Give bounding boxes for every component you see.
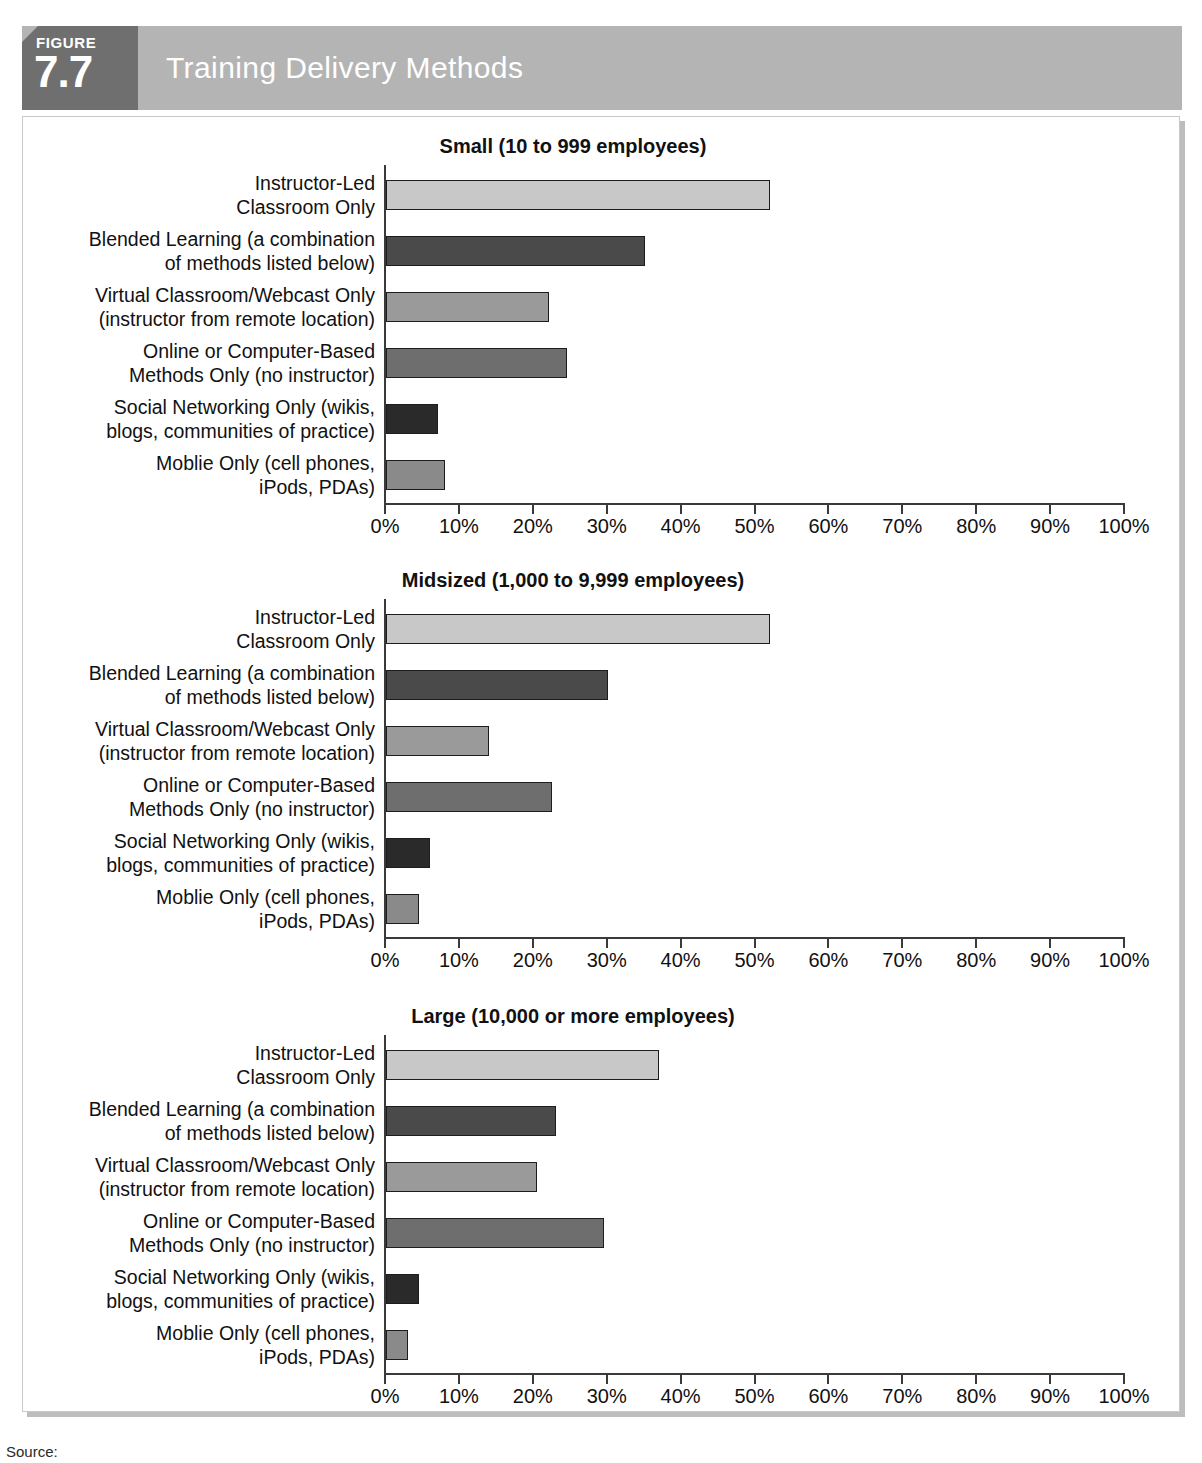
- x-axis-tick-label: 70%: [862, 949, 942, 972]
- x-axis-tick: [680, 1375, 682, 1384]
- x-axis-tick: [384, 939, 386, 948]
- plot-area: 0%10%20%30%40%50%60%70%80%90%100%Instruc…: [23, 599, 1181, 954]
- category-label: Social Networking Only (wikis,blogs, com…: [23, 829, 375, 877]
- x-axis-tick: [606, 505, 608, 514]
- x-axis-tick-label: 0%: [345, 949, 425, 972]
- bar: [386, 180, 770, 210]
- chart-row: Instructor-LedClassroom Only: [23, 1037, 1181, 1093]
- chart-row: Blended Learning (a combinationof method…: [23, 1093, 1181, 1149]
- x-axis-tick: [384, 1375, 386, 1384]
- x-axis-tick-label: 20%: [493, 515, 573, 538]
- x-axis-tick: [901, 1375, 903, 1384]
- category-label: Social Networking Only (wikis,blogs, com…: [23, 1265, 375, 1313]
- x-axis-tick: [827, 505, 829, 514]
- x-axis-tick-label: 0%: [345, 515, 425, 538]
- bar: [386, 838, 430, 868]
- x-axis-tick: [1123, 939, 1125, 948]
- x-axis-tick: [754, 1375, 756, 1384]
- x-axis-tick-label: 0%: [345, 1385, 425, 1408]
- x-axis-tick-label: 60%: [788, 1385, 868, 1408]
- category-label: Instructor-LedClassroom Only: [23, 171, 375, 219]
- x-axis-tick: [975, 939, 977, 948]
- x-axis-tick: [1049, 939, 1051, 948]
- bar: [386, 1162, 537, 1192]
- bar: [386, 670, 608, 700]
- panel-title: Large (10,000 or more employees): [23, 1005, 1123, 1028]
- chart-row: Virtual Classroom/Webcast Only(instructo…: [23, 1149, 1181, 1205]
- x-axis-tick-label: 60%: [788, 515, 868, 538]
- bar: [386, 726, 489, 756]
- bar: [386, 236, 645, 266]
- panel-title: Small (10 to 999 employees): [23, 135, 1123, 158]
- x-axis-tick-label: 10%: [419, 949, 499, 972]
- bar: [386, 1050, 659, 1080]
- figure-number-tab: FIGURE 7.7: [22, 26, 138, 110]
- category-label: Virtual Classroom/Webcast Only(instructo…: [23, 717, 375, 765]
- chart-row: Social Networking Only (wikis,blogs, com…: [23, 1261, 1181, 1317]
- chart-row: Moblie Only (cell phones,iPods, PDAs): [23, 881, 1181, 937]
- x-axis-tick: [754, 505, 756, 514]
- x-axis-tick-label: 20%: [493, 1385, 573, 1408]
- x-axis-tick: [975, 1375, 977, 1384]
- x-axis-tick: [458, 939, 460, 948]
- x-axis-tick-label: 40%: [641, 1385, 721, 1408]
- x-axis-tick: [680, 939, 682, 948]
- bar: [386, 614, 770, 644]
- x-axis-tick: [901, 939, 903, 948]
- bar: [386, 460, 445, 490]
- category-label: Online or Computer-BasedMethods Only (no…: [23, 1209, 375, 1257]
- category-label: Blended Learning (a combinationof method…: [23, 661, 375, 709]
- category-label: Moblie Only (cell phones,iPods, PDAs): [23, 1321, 375, 1369]
- chart-row: Moblie Only (cell phones,iPods, PDAs): [23, 447, 1181, 503]
- category-label: Social Networking Only (wikis,blogs, com…: [23, 395, 375, 443]
- x-axis-tick-label: 50%: [715, 1385, 795, 1408]
- x-axis-tick: [754, 939, 756, 948]
- chart-row: Online or Computer-BasedMethods Only (no…: [23, 769, 1181, 825]
- x-axis-tick-label: 100%: [1084, 515, 1164, 538]
- chart-row: Moblie Only (cell phones,iPods, PDAs): [23, 1317, 1181, 1373]
- x-axis-tick-label: 90%: [1010, 949, 1090, 972]
- chart-row: Social Networking Only (wikis,blogs, com…: [23, 825, 1181, 881]
- x-axis-tick: [532, 1375, 534, 1384]
- category-label: Blended Learning (a combinationof method…: [23, 1097, 375, 1145]
- chart-row: Blended Learning (a combinationof method…: [23, 223, 1181, 279]
- x-axis-tick-label: 100%: [1084, 949, 1164, 972]
- bar: [386, 1218, 604, 1248]
- x-axis-tick: [606, 939, 608, 948]
- x-axis-tick-label: 80%: [936, 949, 1016, 972]
- category-label: Instructor-LedClassroom Only: [23, 605, 375, 653]
- x-axis-tick-label: 90%: [1010, 1385, 1090, 1408]
- x-axis-tick: [1049, 505, 1051, 514]
- category-label: Online or Computer-BasedMethods Only (no…: [23, 773, 375, 821]
- bar: [386, 1274, 419, 1304]
- x-axis-tick-label: 30%: [567, 515, 647, 538]
- x-axis-tick-label: 70%: [862, 515, 942, 538]
- chart-row: Blended Learning (a combinationof method…: [23, 657, 1181, 713]
- x-axis-tick: [532, 939, 534, 948]
- plot-area: 0%10%20%30%40%50%60%70%80%90%100%Instruc…: [23, 165, 1181, 520]
- x-axis-tick-label: 10%: [419, 1385, 499, 1408]
- category-label: Online or Computer-BasedMethods Only (no…: [23, 339, 375, 387]
- x-axis-tick-label: 30%: [567, 949, 647, 972]
- x-axis-tick-label: 70%: [862, 1385, 942, 1408]
- x-axis-tick-label: 30%: [567, 1385, 647, 1408]
- x-axis-tick: [1123, 505, 1125, 514]
- chart-row: Instructor-LedClassroom Only: [23, 167, 1181, 223]
- chart-frame: Small (10 to 999 employees) 0%10%20%30%4…: [22, 116, 1180, 1412]
- bar: [386, 348, 567, 378]
- chart-row: Social Networking Only (wikis,blogs, com…: [23, 391, 1181, 447]
- chart-panel-large: Large (10,000 or more employees) 0%10%20…: [23, 1005, 1181, 1425]
- bar: [386, 292, 549, 322]
- figure-title: Training Delivery Methods: [166, 51, 523, 85]
- chart-row: Virtual Classroom/Webcast Only(instructo…: [23, 713, 1181, 769]
- x-axis-tick: [458, 505, 460, 514]
- figure-header: Training Delivery Methods FIGURE 7.7: [22, 26, 1182, 110]
- x-axis-tick-label: 60%: [788, 949, 868, 972]
- x-axis-tick-label: 90%: [1010, 515, 1090, 538]
- bar: [386, 1330, 408, 1360]
- x-axis-tick: [606, 1375, 608, 1384]
- x-axis-tick: [532, 505, 534, 514]
- x-axis-tick-label: 40%: [641, 515, 721, 538]
- category-label: Instructor-LedClassroom Only: [23, 1041, 375, 1089]
- bar: [386, 404, 438, 434]
